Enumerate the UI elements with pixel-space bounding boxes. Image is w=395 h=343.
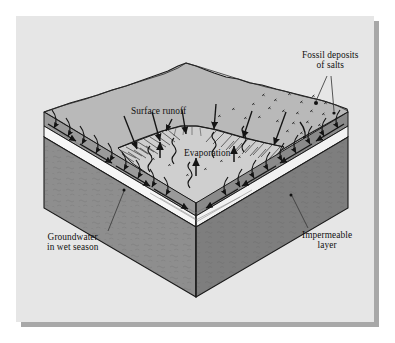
label-fossil-deposits-line2: of salts (302, 60, 359, 70)
label-evaporation: Evaporation (184, 148, 231, 158)
label-fossil-deposits: Fossil deposits of salts (302, 50, 359, 71)
label-surface-runoff: Surface runoff (131, 106, 186, 116)
figure-stage: Fossil deposits of salts Surface runoff … (0, 0, 395, 343)
label-impermeable-layer-line2: layer (302, 240, 352, 250)
label-impermeable-layer-line1: Impermeable (302, 230, 352, 240)
label-impermeable-layer: Impermeable layer (302, 230, 352, 251)
label-fossil-deposits-line1: Fossil deposits (302, 50, 359, 60)
label-groundwater-line1: Groundwater (47, 232, 98, 242)
label-groundwater-line2: in wet season (47, 242, 98, 252)
salt-dot-b (332, 111, 335, 114)
label-groundwater: Groundwater in wet season (47, 232, 98, 253)
salt-dot-a (314, 101, 318, 105)
